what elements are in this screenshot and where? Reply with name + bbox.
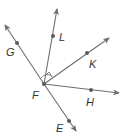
label-H: H bbox=[86, 96, 94, 108]
ray-FL bbox=[44, 9, 57, 84]
label-G: G bbox=[6, 46, 15, 58]
ray-FH bbox=[44, 84, 119, 93]
point-G bbox=[15, 41, 19, 45]
label-K: K bbox=[89, 58, 97, 70]
ray-FK bbox=[44, 38, 109, 84]
geometry-diagram: G L K H E F bbox=[0, 0, 130, 140]
label-E: E bbox=[56, 122, 64, 134]
label-F: F bbox=[32, 89, 40, 101]
point-H bbox=[89, 88, 93, 92]
point-E bbox=[67, 119, 71, 123]
label-L: L bbox=[59, 31, 65, 43]
vertex-point-F bbox=[42, 82, 46, 86]
point-K bbox=[85, 51, 89, 55]
point-L bbox=[51, 34, 55, 38]
